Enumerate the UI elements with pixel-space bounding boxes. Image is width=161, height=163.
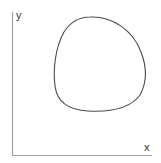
- y-axis-label: y: [16, 9, 22, 21]
- x-axis-label: x: [144, 141, 150, 153]
- diagram-canvas: y x: [0, 0, 161, 163]
- closed-curve: [54, 17, 145, 111]
